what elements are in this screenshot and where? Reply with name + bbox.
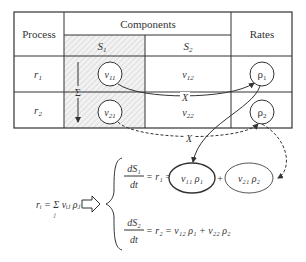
cell-nu22: ν22 <box>182 107 194 120</box>
general-equation: rᵢ = Σ νᵢⱼ ρⱼ <box>36 199 81 210</box>
header-s2: S2 <box>184 40 194 54</box>
eq2-rhs: = r₂ = ν₁₂ ρ₁ + ν₂₂ ρ₂ <box>146 225 231 236</box>
eq2-numerator: dS₂ <box>127 217 141 228</box>
row-r2-label: r2 <box>34 104 42 118</box>
brace-icon <box>106 158 122 250</box>
cell-nu12: ν12 <box>182 69 194 82</box>
eq1-denominator: dt <box>130 179 138 190</box>
multiply-symbol-1: X <box>181 92 189 103</box>
eq1-term1: ν₁₁ ρ₁ <box>181 173 203 184</box>
general-equation-index: j <box>53 212 56 218</box>
implies-arrow-icon <box>82 196 100 212</box>
eq2-denominator: dt <box>130 234 138 245</box>
eq1-term2: ν₂₁ ρ₂ <box>238 173 261 184</box>
multiply-symbol-2: X <box>185 133 193 144</box>
eq1-numerator: dS₁ <box>127 163 140 174</box>
header-process: Process <box>22 28 56 40</box>
header-rates: Rates <box>250 28 274 40</box>
rho1-to-term1-link <box>193 86 260 162</box>
eq1-mid: = r₁ = <box>146 171 172 182</box>
header-components: Components <box>120 18 176 30</box>
row-r1-label: r1 <box>34 68 42 82</box>
eq1-plus: + <box>217 173 223 184</box>
stoichiometry-diagram: Process Components Rates S1 S2 r1 r2 Σ ν… <box>0 0 306 262</box>
sum-symbol: Σ <box>75 87 81 98</box>
